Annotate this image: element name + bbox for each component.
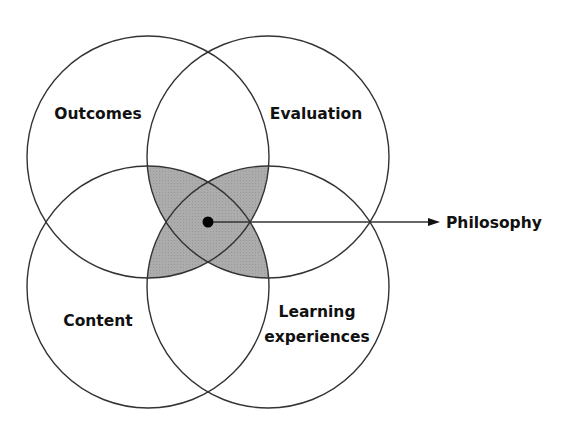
label-outcomes: Outcomes <box>54 105 141 123</box>
label-content: Content <box>63 312 133 330</box>
label-evaluation: Evaluation <box>270 105 362 123</box>
label-experiences: experiences <box>264 328 370 346</box>
arrowhead-icon <box>428 218 440 226</box>
label-learning: Learning <box>279 303 356 321</box>
label-philosophy: Philosophy <box>446 214 542 232</box>
center-dot <box>203 217 214 228</box>
venn-diagram: Outcomes Evaluation Content Learning exp… <box>0 0 567 423</box>
